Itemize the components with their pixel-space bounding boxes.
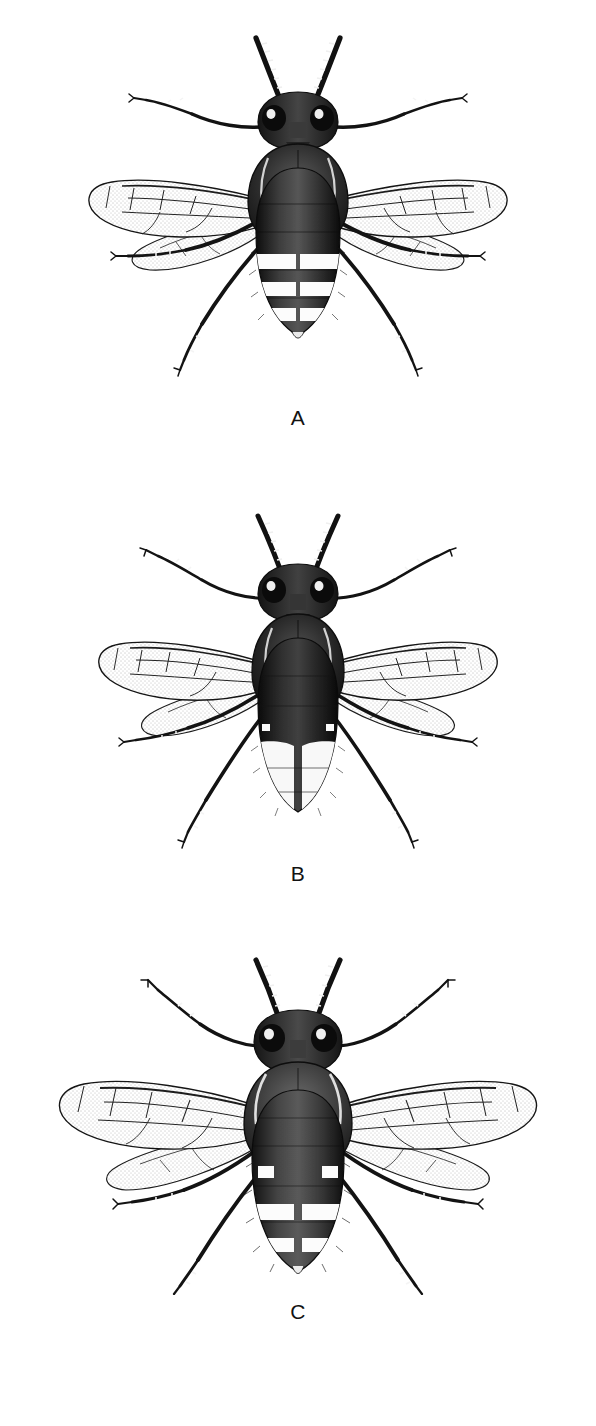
abdomen-spot-left-c [258,1166,274,1178]
forewing-left-c [60,1081,269,1149]
head-a [258,92,338,150]
panel-label-b: B [0,862,596,886]
panel-label-a: A [0,406,596,430]
eye-right-b [310,577,334,603]
head-b [258,564,338,622]
panel-label-c: C [0,1300,596,1324]
eye-left-b [262,577,286,603]
abdomen-b [251,638,345,820]
forewing-left-b [99,642,270,700]
figure-panel-a: A [0,0,596,470]
illustration-plate: A [0,0,596,1426]
wasp-illustration-a [0,18,596,403]
eye-left-a [262,105,286,131]
abdomen-spot-right-c [322,1166,338,1178]
eye-right-a [310,105,334,131]
figure-panel-c: C [0,940,596,1426]
wasp-illustration-c [0,950,596,1295]
figure-panel-b: B [0,470,596,910]
wasp-illustration-b [0,500,596,860]
abdomen-a [249,168,347,338]
abdomen-c [244,1090,352,1274]
forewing-right-c [328,1081,537,1149]
forewing-right-b [326,642,497,700]
